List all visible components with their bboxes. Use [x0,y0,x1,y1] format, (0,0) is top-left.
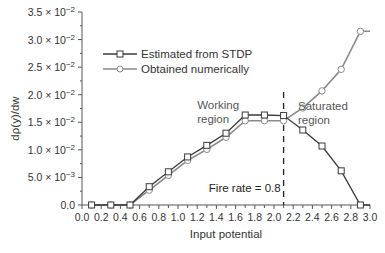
data-point-square [242,112,248,118]
x-axis-title: Input potential [190,228,262,240]
annotation-fire: Fire rate = 0.8 [209,182,281,194]
x-tick-label: 2.2 [286,211,301,223]
data-point-square [108,202,114,208]
data-point-square [127,202,133,208]
legend-item-estimated-stdp: Estimated from STDP [103,48,253,60]
y-tick-label: 0.0 [60,199,75,211]
x-tick-label: 1.6 [228,211,243,223]
x-tick-label: 2.6 [324,211,339,223]
data-point-circle [357,28,363,34]
data-point-square [357,202,363,208]
legend: Estimated from STDPObtained numerically [103,48,253,75]
data-point-square [300,127,306,133]
x-tick-label: 0.4 [113,211,128,223]
legend-circle-marker [117,66,123,72]
y-tick-label: 3.5 × 10−2 [28,5,76,18]
x-tick-label: 1.4 [209,211,224,223]
y-tick-label: 5.0 × 10−3 [28,170,76,183]
data-point-circle [338,66,344,72]
data-point-square [185,154,191,160]
x-tick-label: 3.0 [363,211,378,223]
y-tick-label: 1.0 × 10−2 [28,143,76,156]
x-tick-label: 1.2 [190,211,205,223]
y-axis: 0.05.0 × 10−31.0 × 10−21.5 × 10−22.0 × 1… [28,5,82,211]
data-point-square [165,169,171,175]
chart: 0.05.0 × 10−31.0 × 10−21.5 × 10−22.0 × 1… [0,0,385,253]
annotation-working: Workingregion [197,99,239,125]
y-tick-label: 2.5 × 10−2 [28,60,76,73]
data-point-square [204,142,210,148]
x-tick-label: 0.0 [75,211,90,223]
y-tick-label: 2.0 × 10−2 [28,88,76,101]
x-tick-label: 0.8 [151,211,166,223]
x-tick-label: 1.8 [247,211,262,223]
y-tick-label: 1.5 × 10−2 [28,115,76,128]
legend-label: Estimated from STDP [141,48,253,60]
annotation-saturated: Saturatedregion [298,100,348,126]
data-point-circle [319,88,325,94]
data-point-square [89,202,95,208]
x-tick-label: 2.4 [305,211,320,223]
legend-item-obtained-numerically: Obtained numerically [103,63,249,75]
data-point-square [146,184,152,190]
data-point-square [319,143,325,149]
y-axis-title: dρ(y)/dw [9,96,21,141]
legend-label: Obtained numerically [141,63,249,75]
legend-square-marker [117,51,123,57]
data-point-square [261,112,267,118]
x-axis: 0.00.20.40.60.81.01.21.41.61.82.02.22.42… [75,205,378,223]
y-tick-label: 3.0 × 10−2 [28,33,76,46]
data-point-square [281,113,287,119]
data-point-square [223,130,229,136]
x-tick-label: 2.0 [267,211,282,223]
data-point-square [338,168,344,174]
x-tick-label: 1.0 [171,211,186,223]
x-tick-label: 2.8 [343,211,358,223]
x-tick-label: 0.6 [132,211,147,223]
x-tick-label: 0.2 [94,211,109,223]
